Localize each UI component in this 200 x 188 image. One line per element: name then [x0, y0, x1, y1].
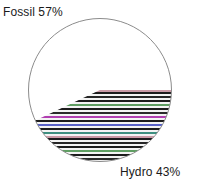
pie-chart: Fossil 57% Hydro 43%: [0, 0, 200, 188]
pie-label-hydro: Hydro 43%: [120, 165, 180, 179]
pie-label-fossil: Fossil 57%: [3, 5, 63, 19]
pie-chart-svg: [0, 0, 200, 188]
